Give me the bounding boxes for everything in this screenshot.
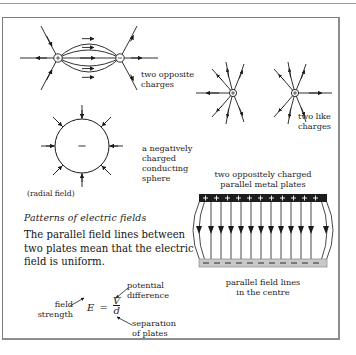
equation-fraction: V d xyxy=(113,296,120,316)
charged-sphere-diagram xyxy=(41,105,123,187)
equation-numerator: V xyxy=(113,296,120,305)
radial-field-caption: (radial field) xyxy=(27,189,97,198)
plates-title-line2: parallel metal plates xyxy=(196,180,330,190)
annotation-separation-line2: of plates xyxy=(132,329,194,339)
equation-symbol-E: E xyxy=(87,302,94,313)
figure-heading: Patterns of electric fields xyxy=(24,212,224,223)
annotation-field-strength-line2: strength xyxy=(32,310,73,320)
figure-page: two opposite charges two like charges a … xyxy=(0,0,356,355)
equation-denominator: d xyxy=(113,305,120,316)
parallel-plates-diagram xyxy=(193,194,333,267)
plates-caption-line2: in the centre xyxy=(196,288,330,298)
annotation-potential-line2: difference xyxy=(127,291,189,301)
field-direction-arrows xyxy=(196,226,329,234)
dipole-diagram xyxy=(20,26,158,90)
figure-body-text: The parallel field lines between two pla… xyxy=(24,228,202,269)
dipole-label: two opposite charges xyxy=(141,70,215,89)
like-charges-label-line2: charges xyxy=(298,122,348,132)
electric-field-equation: E = V d xyxy=(87,297,120,317)
leader-separation xyxy=(117,317,132,325)
equation-equals: = xyxy=(98,302,110,313)
